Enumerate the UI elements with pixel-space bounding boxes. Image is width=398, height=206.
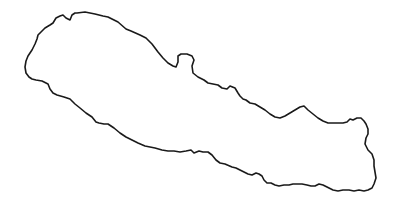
- country-border-outline: [25, 12, 376, 191]
- nepal-outline-map: [0, 0, 398, 206]
